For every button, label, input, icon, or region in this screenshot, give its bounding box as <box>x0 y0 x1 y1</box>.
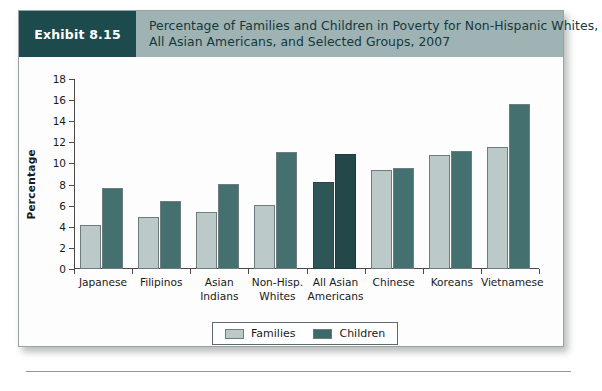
exhibit-title: Percentage of Families and Children in P… <box>136 11 602 57</box>
y-axis-tick-label: 6 <box>40 200 66 212</box>
legend-swatch-families-icon <box>225 329 244 339</box>
bar-families <box>138 217 159 269</box>
bar-group <box>248 79 306 269</box>
y-axis-tick-label: 0 <box>40 263 66 275</box>
bar-group <box>423 79 481 269</box>
bar-families <box>487 147 508 269</box>
y-axis-tick-label: 18 <box>40 73 66 85</box>
chart-legend: Families Children <box>212 322 398 345</box>
x-axis-tick-label: Non-Hisp.Whites <box>248 275 306 303</box>
x-axis-tick-label: All AsianAmericans <box>307 275 365 303</box>
bar-children <box>393 168 414 269</box>
bar-children <box>218 184 239 270</box>
x-axis-labels: JapaneseFilipinosAsianIndiansNon-Hisp.Wh… <box>74 275 539 315</box>
x-axis-tick-label: Vietnamese <box>481 275 539 289</box>
x-axis-tick-mark <box>539 269 540 274</box>
x-axis-tick-mark <box>481 269 482 274</box>
page-divider-rule <box>26 371 571 372</box>
bar-group <box>74 79 132 269</box>
bar-children <box>509 104 530 269</box>
bar-children <box>276 152 297 269</box>
bar-group <box>307 79 365 269</box>
exhibit-title-line-2: All Asian Americans, and Selected Groups… <box>149 34 598 50</box>
bar-families <box>80 225 101 269</box>
x-axis-tick-mark <box>132 269 133 274</box>
bar-families <box>371 170 392 269</box>
legend-label-families: Families <box>251 327 295 340</box>
x-axis-tick-mark <box>365 269 366 274</box>
exhibit-header: Exhibit 8.15 Percentage of Families and … <box>19 11 563 57</box>
legend-label-children: Children <box>339 327 385 340</box>
legend-item-families: Families <box>225 327 295 340</box>
y-axis-tick-label: 2 <box>40 242 66 254</box>
bar-families <box>196 212 217 269</box>
y-axis-tick-label: 14 <box>40 115 66 127</box>
x-axis-tick-label: AsianIndians <box>190 275 248 303</box>
bar-group <box>481 79 539 269</box>
y-axis-tick-label: 10 <box>40 157 66 169</box>
x-axis-tick-mark <box>190 269 191 274</box>
x-axis-tick-label: Filipinos <box>132 275 190 289</box>
x-axis-tick-mark <box>307 269 308 274</box>
bar-group <box>365 79 423 269</box>
y-axis-tick-label: 12 <box>40 136 66 148</box>
y-axis-title: Percentage <box>25 149 41 220</box>
x-axis-tick-mark <box>423 269 424 274</box>
x-axis-tick-mark <box>74 269 75 274</box>
bar-children <box>335 154 356 269</box>
exhibit-panel: Exhibit 8.15 Percentage of Families and … <box>18 10 564 347</box>
bars-layer <box>74 79 539 269</box>
y-axis-tick-label: 4 <box>40 221 66 233</box>
chart-body: Percentage 024681012141618 JapaneseFilip… <box>19 57 563 346</box>
legend-item-children: Children <box>313 327 385 340</box>
x-axis-tick-mark <box>248 269 249 274</box>
bar-children <box>102 188 123 269</box>
y-axis-tick-label: 16 <box>40 94 66 106</box>
plot-area: 024681012141618 <box>74 79 539 269</box>
exhibit-number-tag: Exhibit 8.15 <box>19 11 136 57</box>
bar-children <box>451 151 472 269</box>
bar-group <box>190 79 248 269</box>
legend-swatch-children-icon <box>313 329 332 339</box>
bar-families <box>429 155 450 269</box>
bar-families <box>254 205 275 269</box>
x-axis-tick-label: Japanese <box>74 275 132 289</box>
exhibit-title-line-1: Percentage of Families and Children in P… <box>149 18 598 34</box>
y-axis-tick-label: 8 <box>40 179 66 191</box>
bar-group <box>132 79 190 269</box>
x-axis-tick-label: Koreans <box>423 275 481 289</box>
x-axis-tick-label: Chinese <box>365 275 423 289</box>
bar-children <box>160 201 181 269</box>
bar-families <box>313 182 334 269</box>
